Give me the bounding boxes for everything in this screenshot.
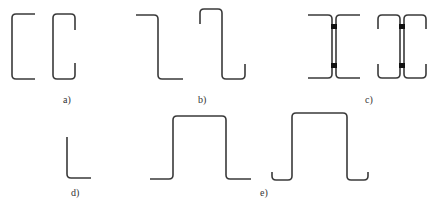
panel-label-b: b) — [198, 95, 206, 105]
weld-bottom — [399, 63, 405, 68]
panel-label-d: d) — [71, 188, 79, 198]
panel-label-a: a) — [63, 95, 71, 105]
lipped-channel-section — [53, 14, 75, 79]
lipped-z-section — [200, 9, 245, 79]
weld-top — [331, 24, 337, 29]
angle-section — [67, 137, 91, 178]
panel-label-c: c) — [365, 95, 373, 105]
weld-top — [399, 24, 405, 29]
built-up-i-section-lipped — [378, 15, 426, 78]
weld-bottom — [331, 63, 337, 68]
panel-label-e: e) — [260, 188, 268, 198]
lipped-hat-section — [272, 113, 368, 180]
built-up-i-section-plain — [308, 15, 360, 78]
plain-z-section — [136, 15, 183, 79]
plain-channel-section — [12, 14, 35, 79]
plain-hat-section — [150, 116, 251, 179]
section-diagram — [0, 0, 434, 212]
